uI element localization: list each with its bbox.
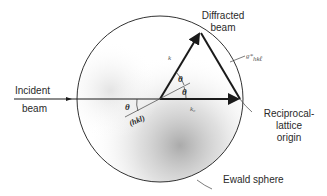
g-vector-subscript: hkℓ xyxy=(253,55,263,63)
ewald-sphere-label: Ewald sphere xyxy=(223,174,284,185)
reciprocal-origin-label-1: Reciprocal- xyxy=(264,108,315,119)
incident-beam-label-1: Incident xyxy=(15,85,50,96)
theta-lower-label: θ xyxy=(182,87,187,97)
incident-beam-label-2: beam xyxy=(22,103,47,114)
diffracted-beam-label-2: beam xyxy=(210,22,235,33)
diffracted-beam-label-1: Diffracted xyxy=(202,10,245,21)
reciprocal-origin-label-2: lattice xyxy=(276,120,303,131)
k0-vector-label: k₀ xyxy=(190,105,196,113)
incident-arrow-icon xyxy=(66,97,72,101)
reciprocal-origin-label-3: origin xyxy=(277,132,301,143)
ewald-diagram: Diffracted beam Incident beam Reciprocal… xyxy=(0,0,327,196)
theta-plane-label: θ xyxy=(125,102,130,112)
sphere-leader xyxy=(197,180,212,189)
theta-upper-label: θ xyxy=(178,74,183,84)
